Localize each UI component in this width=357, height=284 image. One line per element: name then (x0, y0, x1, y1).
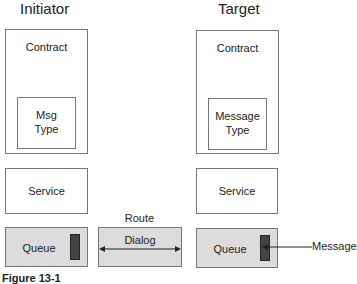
target-contract-box: Contract Message Type (196, 30, 279, 154)
initiator-title: Initiator (20, 0, 69, 17)
target-queue-label: Queue (205, 242, 255, 256)
route-label: Route (98, 211, 181, 225)
initiator-msg-type-line2: Type (18, 122, 75, 136)
initiator-msg-type-line1: Msg (18, 108, 75, 122)
initiator-service-label: Service (6, 184, 87, 198)
initiator-queue-box: Queue (5, 227, 88, 267)
dialog-box: Dialog (98, 227, 182, 267)
message-label: Message (312, 240, 357, 252)
initiator-queue-label: Queue (14, 241, 64, 255)
target-contract-label: Contract (197, 41, 278, 55)
initiator-msg-type-box: Msg Type (17, 97, 76, 149)
target-msg-type-box: Message Type (208, 98, 267, 150)
message-pointer-arrow-icon (262, 243, 312, 251)
dialog-double-arrow-icon (99, 245, 181, 253)
target-service-box: Service (196, 168, 278, 214)
initiator-service-box: Service (5, 168, 88, 214)
initiator-contract-label: Contract (6, 40, 87, 54)
target-service-label: Service (197, 184, 277, 198)
target-msg-type-line1: Message (209, 109, 266, 123)
figure-caption: Figure 13-1 (2, 272, 61, 284)
initiator-queue-message-bar (70, 234, 80, 260)
target-msg-type-line2: Type (209, 123, 266, 137)
initiator-contract-box: Contract Msg Type (5, 29, 88, 154)
target-title: Target (218, 0, 260, 17)
